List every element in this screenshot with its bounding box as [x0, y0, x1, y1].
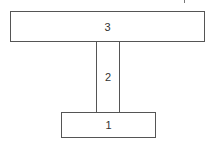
part-1-base: 1 [61, 112, 156, 138]
part-label: 1 [105, 119, 111, 131]
part-3-top-flange: 3 [10, 11, 205, 42]
edge-mark [184, 0, 185, 3]
part-label: 2 [105, 71, 111, 83]
part-label: 3 [104, 21, 110, 33]
part-2-web: 2 [96, 41, 120, 113]
